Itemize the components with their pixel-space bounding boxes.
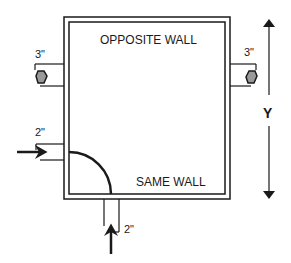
left-inlet-pipe: [17, 144, 64, 160]
same-wall-label: SAME WALL: [136, 175, 206, 189]
left-top-pipe: [35, 64, 64, 86]
arrow-down-icon: [263, 191, 275, 199]
valve-icon: [246, 71, 257, 83]
door-swing-arc: [69, 152, 111, 194]
left-inlet-size-label: 2": [35, 126, 45, 138]
bottom-inlet-pipe: [104, 199, 119, 254]
right-top-size-label: 3": [244, 46, 254, 58]
right-top-pipe: [230, 64, 257, 86]
left-top-size-label: 3": [35, 48, 45, 60]
valve-icon: [36, 71, 47, 83]
bottom-inlet-size-label: 2": [124, 223, 134, 235]
arrow-up-icon: [263, 19, 275, 27]
y-dimension-label: Y: [263, 105, 273, 121]
opposite-wall-label: OPPOSITE WALL: [100, 33, 197, 47]
inner-wall: [69, 22, 225, 194]
room-diagram: 3" 3" 2" 2" OPPOSITE WALL SAME WALL Y: [0, 0, 291, 263]
